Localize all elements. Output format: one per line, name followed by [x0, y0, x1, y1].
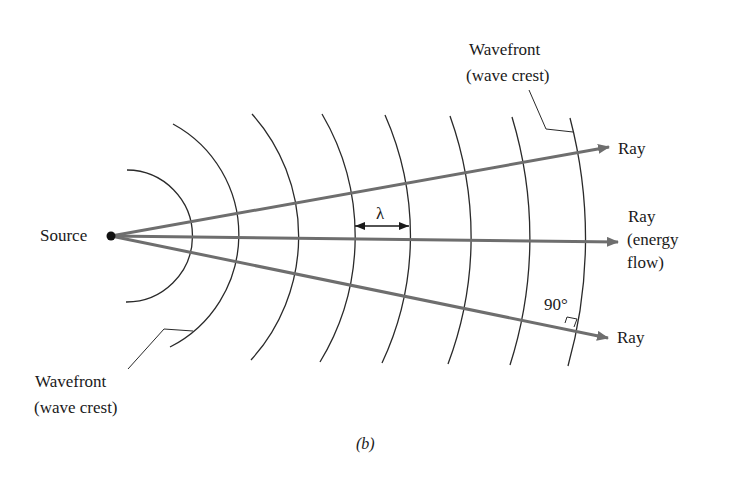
- ray-lower-label: Ray: [617, 328, 644, 347]
- ray-middle-label-line1: Ray: [628, 207, 655, 226]
- source-label: Source: [40, 226, 87, 245]
- leader-line-bottom: [128, 329, 193, 369]
- figure-caption: (b): [356, 434, 375, 453]
- ray-lower: [111, 236, 608, 338]
- wavelength-label: λ: [376, 204, 384, 223]
- leader-line-top: [529, 90, 573, 132]
- ray-upper-label: Ray: [618, 139, 645, 158]
- wavefront-bottom-label-line1: Wavefront: [35, 372, 106, 391]
- angle-label: 90°: [544, 295, 568, 314]
- ray-middle-label-line2: (energy: [627, 230, 679, 249]
- ray-upper: [111, 147, 609, 236]
- source-point: [107, 232, 116, 241]
- ray-middle: [111, 236, 618, 242]
- rays: [111, 147, 618, 338]
- right-angle-marker: [565, 317, 577, 327]
- wavefront-top-label-line2: (wave crest): [466, 66, 550, 85]
- wavefront-top-label-line1: Wavefront: [469, 40, 540, 59]
- wavefront-bottom-label-line2: (wave crest): [34, 398, 118, 417]
- ray-middle-label-line3: flow): [627, 253, 664, 272]
